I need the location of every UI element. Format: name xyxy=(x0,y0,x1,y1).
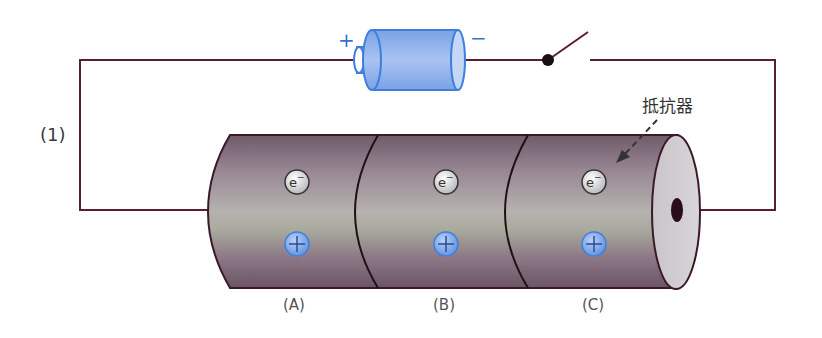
svg-text:−: − xyxy=(594,172,602,182)
circuit-diagram: e− e− e− xyxy=(0,0,822,338)
segment-label-c: (C) xyxy=(582,296,604,314)
svg-text:−: − xyxy=(446,172,454,182)
switch-contact xyxy=(542,54,554,66)
resistor-label: 抵抗器 xyxy=(642,92,693,117)
svg-text:e: e xyxy=(289,175,297,190)
circuit-label: (1) xyxy=(40,124,66,145)
terminal-hole xyxy=(671,198,683,222)
svg-text:−: − xyxy=(297,172,305,182)
battery-icon xyxy=(354,30,465,90)
segment-label-b: (B) xyxy=(433,296,455,314)
battery-minus-sign: − xyxy=(470,26,487,50)
svg-text:e: e xyxy=(586,175,594,190)
battery-plus-sign: + xyxy=(338,28,355,52)
segment-label-a: (A) xyxy=(283,296,305,314)
svg-text:e: e xyxy=(438,175,446,190)
